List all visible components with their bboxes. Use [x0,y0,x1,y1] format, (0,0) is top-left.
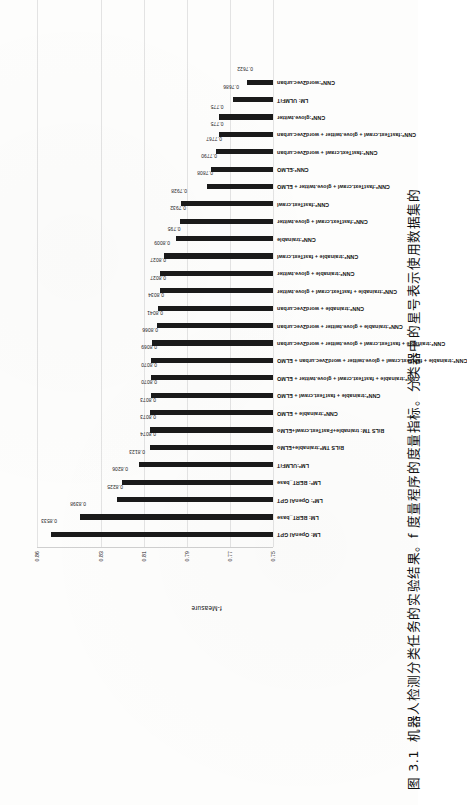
gridline [273,0,274,547]
bar[interactable]: 0.8027 [160,288,273,293]
bar[interactable]: 0.7767 [216,149,273,154]
category-label: BiLS TM*:trainable+ELMo [277,445,344,451]
category-slot: LM: OpenAI GPT [275,527,385,544]
category-slot: BiLS TM: trainable+FastText.crawl+ELMo [275,422,385,439]
category-label: LM: OpenAI GPT [277,532,321,538]
y-axis-tick-label: 0.81 [141,551,147,577]
bar-slot: 0.8027 [37,282,273,299]
bar-value-label: 0.7622 [237,66,253,72]
category-slot: CNN*:fastText.crawl + glove.twitter + wo… [275,127,385,144]
bar-slot: 0.7622 [37,73,273,90]
plot-area: 0.750.770.790.810.830.86 0.85330.83980.8… [37,0,273,548]
category-label: LM*: OpenAI GPT [277,498,323,504]
category-label: CNN*:trainable + fastText.crawl + ELMO [277,393,380,399]
category-label: CNN*:trainable + fastText.crawl + glove.… [277,376,419,382]
category-label: LM: BERT_base [277,515,319,521]
category-label: LM*:ULMFiT [277,463,309,469]
category-slot: CNN*:trainable + fastText.crawl + glove.… [275,353,385,370]
category-slot: CNN*:fastText.crawl + word2vec.urban [275,144,385,161]
bar[interactable]: 0.795 [176,236,273,241]
bar-slot: 0.7686 [37,91,273,108]
bar[interactable]: 0.7808 [207,184,273,189]
bar-slot: 0.8027 [37,265,273,282]
bar-slot: 0.775 [37,108,273,125]
category-slot: LM: ULMFiT [275,92,385,109]
bar[interactable]: 0.8073 [150,427,273,432]
category-label: CNN*:fastText.crawl + word2vec.urban [277,150,377,156]
category-slot: CNN*:trainable + fastText.crawl + glove.… [275,335,385,352]
category-slot: CNN*:trainable [275,231,385,248]
category-slot: BiLS TM*:trainable+ELMo [275,440,385,457]
bar[interactable]: 0.8034 [158,306,273,311]
bar[interactable]: 0.8533 [51,532,273,537]
bar[interactable]: 0.8074 [150,445,273,450]
bar[interactable]: 0.8027 [160,271,273,276]
plot-wrapper: f-Measure 0.750.770.790.810.830.86 0.853… [33,0,385,602]
category-label: CNN*:trainable + word2vec.urban [277,306,364,312]
category-slot: CNN*:glove.twitter [275,109,385,126]
bar-slot: 0.8073 [37,421,273,438]
bar[interactable]: 0.8009 [164,253,273,258]
bar[interactable]: 0.8069 [151,358,273,363]
bar[interactable]: 0.775 [219,114,273,119]
y-axis-tick-label: 0.86 [34,551,40,577]
bar-slot: 0.8009 [37,247,273,264]
bar[interactable]: 0.8398 [80,514,273,519]
bar-slot: 0.775 [37,126,273,143]
category-label: CNN*:fastText.crawl + glove.twitter [277,219,368,225]
figure-caption-text: 机器人检测分类任务的实验结果。f 度量程序的度量指标。分类器中的星号表示使用数据… [406,188,421,742]
figure-caption: 图 3.1机器人检测分类任务的实验结果。f 度量程序的度量指标。分类器中的星号表… [403,188,422,790]
category-slot: CNN*:fastText.crawl + glove.twitter + EL… [275,179,385,196]
category-label: LM*: BERT_base [277,480,321,486]
category-slot: LM: BERT_base [275,509,385,526]
category-label: CNN*:fastText.crawl + glove.twitter + wo… [277,132,416,138]
bar[interactable]: 0.7790 [211,167,273,172]
bar-slot: 0.8034 [37,300,273,317]
category-slot: LM*:ULMFiT [275,457,385,474]
bar-slot: 0.8069 [37,352,273,369]
y-axis-tick-label: 0.83 [98,551,104,577]
bar-slot: 0.8070 [37,369,273,386]
bar-slot: 0.8074 [37,439,273,456]
bar[interactable]: 0.8041 [157,323,273,328]
bar-series: 0.85330.83980.82250.82060.81230.80740.80… [37,0,273,547]
category-label: CNN*:glove.twitter [277,115,325,121]
bar-slot: 0.7928 [37,195,273,212]
bar[interactable]: 0.8073 [150,410,273,415]
bar[interactable]: 0.8225 [117,497,273,502]
bar-slot: 0.8206 [37,473,273,490]
bar-slot: 0.8041 [37,317,273,334]
category-label: CNN*:trainable + ELMO [277,411,338,417]
bar[interactable]: 0.8206 [122,480,273,485]
category-slot: CNN*:trainable + fastText.crawl + ELMO [275,387,385,404]
bar-slot: 0.8073 [37,404,273,421]
category-slot: CNN*:trainable + fastText.crawl + glove.… [275,370,385,387]
figure-number: 图 3.1 [406,750,421,790]
category-slot: CNN*:trainable + fastText.crawl + glove.… [275,283,385,300]
y-axis-tick-label: 0.79 [184,551,190,577]
category-label: CNN*:trainable + fastText.crawl + glove.… [277,289,397,295]
bar-slot: 0.8070 [37,386,273,403]
category-slot: CNN*:trainable + ELMO [275,405,385,422]
bar-slot: 0.7767 [37,143,273,160]
bar[interactable]: 0.8123 [139,462,273,467]
category-label: BiLS TM: trainable+FastText.crawl+ELMo [277,428,384,434]
bar-slot: 0.7790 [37,160,273,177]
category-label: CNN*:trainable + fastText.crawl + glove.… [277,358,467,364]
category-label: CNN*:trainable [277,237,316,243]
bar[interactable]: 0.8070 [151,375,273,380]
bar[interactable]: 0.8066 [152,340,273,345]
bar[interactable]: 0.7686 [233,97,273,102]
bar[interactable]: 0.8070 [151,393,273,398]
bar[interactable]: 0.7932 [180,219,273,224]
bar-slot: 0.7808 [37,178,273,195]
category-label: LM: ULMFiT [277,98,308,104]
bar-chart: f-Measure 0.750.770.790.810.830.86 0.853… [33,0,385,602]
bar-slot: 0.8066 [37,334,273,351]
y-axis-tick-label: 0.77 [227,551,233,577]
bar[interactable]: 0.775 [219,132,273,137]
bar[interactable]: 0.7622 [247,80,273,85]
bar[interactable]: 0.7928 [181,201,273,206]
